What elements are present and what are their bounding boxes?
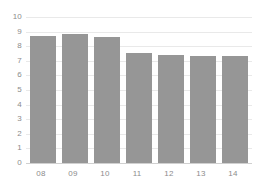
- y-tick-label-1: 1: [2, 144, 22, 152]
- x-tick-label-14: 14: [218, 170, 248, 178]
- x-tick-label-11: 11: [122, 170, 152, 178]
- y-tick-label-10: 10: [2, 13, 22, 21]
- bar-chart: 10 9 8 7 6 5 4 3 2 1 0 08 09 10 11 12 1: [0, 0, 262, 191]
- bar-09: [62, 34, 88, 163]
- x-tick-label-10: 10: [90, 170, 120, 178]
- y-tick-label-9: 9: [2, 28, 22, 36]
- bars-layer: [26, 17, 252, 163]
- bar-14: [222, 56, 248, 163]
- bar-13: [190, 56, 216, 163]
- x-tick-label-09: 09: [58, 170, 88, 178]
- y-tick-label-7: 7: [2, 57, 22, 65]
- bar-10: [94, 37, 120, 163]
- y-tick-label-8: 8: [2, 42, 22, 50]
- bar-12: [158, 55, 184, 163]
- x-tick-label-13: 13: [186, 170, 216, 178]
- gridline-baseline: [26, 163, 252, 164]
- y-tick-label-3: 3: [2, 115, 22, 123]
- plot-area: [26, 17, 252, 163]
- y-tick-label-2: 2: [2, 130, 22, 138]
- x-tick-label-12: 12: [154, 170, 184, 178]
- y-tick-label-6: 6: [2, 71, 22, 79]
- y-tick-label-5: 5: [2, 86, 22, 94]
- x-tick-label-08: 08: [26, 170, 56, 178]
- bar-08: [30, 36, 56, 163]
- y-tick-label-0: 0: [2, 159, 22, 167]
- bar-11: [126, 53, 152, 163]
- y-tick-label-4: 4: [2, 101, 22, 109]
